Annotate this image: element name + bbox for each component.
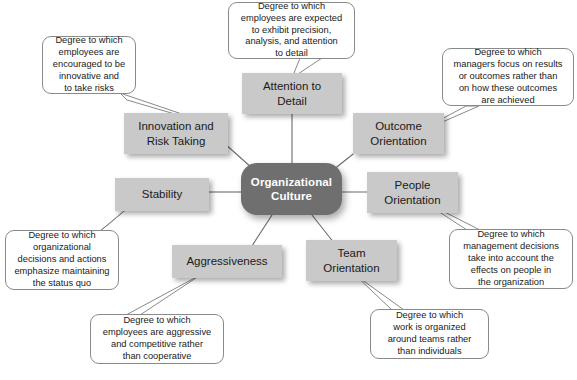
callout-line: to exhibit precision,: [241, 25, 342, 37]
tail-aggressiveness: [126, 274, 202, 315]
dimension-label-line2: Orientation: [370, 135, 426, 147]
callout-line: Degree to which: [14, 230, 109, 242]
dimension-box-innovation-and-risk-taking[interactable]: Innovation and Risk Taking: [124, 113, 228, 154]
dimension-label-line1: Stability: [142, 188, 182, 200]
callout-line: work is organized: [388, 322, 472, 334]
callout-line: employees are expected: [241, 13, 342, 25]
spoke-aggressiveness: [250, 215, 272, 249]
callout-line: Degree to which: [241, 1, 342, 13]
dimension-box-attention-to-detail[interactable]: Attention to Detail: [242, 73, 342, 114]
callout-line: and competitive rather: [103, 339, 212, 351]
callout-line: to take risks: [53, 83, 125, 95]
dimension-label-line2: Orientation: [323, 262, 379, 274]
center-node-line2: Culture: [271, 190, 312, 202]
callout-line: management decisions: [463, 241, 559, 253]
callout-line: employees are aggressive: [103, 327, 212, 339]
callout-outcome-orientation: Degree to which managers focus on result…: [442, 48, 574, 106]
callout-line: Degree to which: [388, 310, 472, 322]
dimension-label-line1: Aggressiveness: [186, 255, 267, 267]
callout-line: or outcomes rather than: [453, 71, 562, 83]
callout-line: encouraged to be: [53, 59, 125, 71]
center-node-line1: Organizational: [251, 176, 332, 188]
callout-stability: Degree to which organizational decisions…: [5, 230, 119, 290]
callout-line: Degree to which: [453, 47, 562, 59]
callout-attention-to-detail: Degree to which employees are expected t…: [228, 2, 355, 59]
callout-aggressiveness: Degree to which employees are aggressive…: [90, 314, 224, 364]
callout-line: effects on people in: [463, 265, 559, 277]
callout-line: take into account the: [463, 253, 559, 265]
dimension-label-line1: Outcome: [375, 120, 422, 132]
callout-line: around teams rather: [388, 334, 472, 346]
callout-line: employees are: [53, 47, 125, 59]
callout-line: innovative and: [53, 71, 125, 83]
callout-line: emphasize maintaining: [14, 266, 109, 278]
callout-line: are achieved: [453, 95, 562, 107]
callout-line: decisions and actions: [14, 254, 109, 266]
dimension-label-line1: Innovation and: [138, 120, 213, 132]
callout-line: Degree to which: [463, 229, 559, 241]
callout-line: the organization: [463, 277, 559, 289]
dimension-box-aggressiveness[interactable]: Aggressiveness: [172, 245, 282, 278]
dimension-label-line1: Attention to: [263, 80, 321, 92]
dimension-box-people-orientation[interactable]: People Orientation: [367, 172, 458, 213]
callout-line: Degree to which: [103, 315, 212, 327]
callout-line: the status quo: [14, 278, 109, 290]
callout-team-orientation: Degree to which work is organized around…: [370, 309, 489, 359]
callout-line: on how these outcomes: [453, 83, 562, 95]
dimension-label-line2: Orientation: [384, 194, 440, 206]
callout-line: to detail: [241, 48, 342, 60]
dimension-label-line2: Detail: [277, 95, 306, 107]
dimension-box-team-orientation[interactable]: Team Orientation: [306, 240, 397, 281]
center-node-organizational-culture[interactable]: Organizational Culture: [241, 163, 342, 215]
dimension-box-outcome-orientation[interactable]: Outcome Orientation: [353, 113, 444, 154]
diagram-canvas: Organizational Culture Attention to Deta…: [0, 0, 577, 380]
callout-line: Degree to which: [53, 35, 125, 47]
callout-line: than cooperative: [103, 351, 212, 363]
callout-line: managers focus on results: [453, 59, 562, 71]
dimension-label-line1: People: [395, 179, 431, 191]
dimension-label-line2: Risk Taking: [147, 135, 206, 147]
callout-line: than individuals: [388, 346, 472, 358]
callout-people-orientation: Degree to which management decisions tak…: [449, 229, 573, 289]
dimension-box-stability[interactable]: Stability: [115, 178, 209, 211]
callout-line: analysis, and attention: [241, 36, 342, 48]
dimension-label-line1: Team: [337, 247, 365, 259]
callout-line: organizational: [14, 242, 109, 254]
spoke-innovation-and-risk-taking: [224, 143, 252, 168]
callout-innovation-and-risk-taking: Degree to which employees are encouraged…: [42, 36, 136, 94]
